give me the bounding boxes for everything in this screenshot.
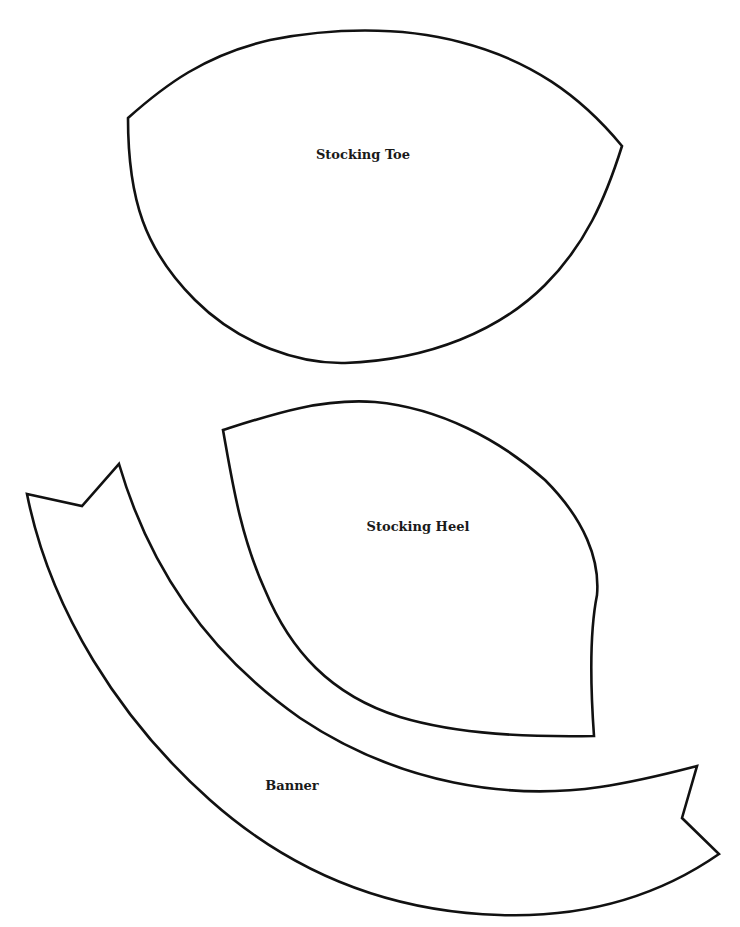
stocking-heel-label: Stocking Heel bbox=[367, 519, 470, 534]
stocking-toe-outline bbox=[128, 31, 622, 364]
banner-label: Banner bbox=[265, 778, 318, 793]
stocking-heel-outline bbox=[223, 401, 597, 736]
pattern-outlines bbox=[0, 0, 740, 927]
stocking-toe-label: Stocking Toe bbox=[316, 147, 410, 162]
pattern-page: Stocking Toe Stocking Heel Banner bbox=[0, 0, 740, 927]
